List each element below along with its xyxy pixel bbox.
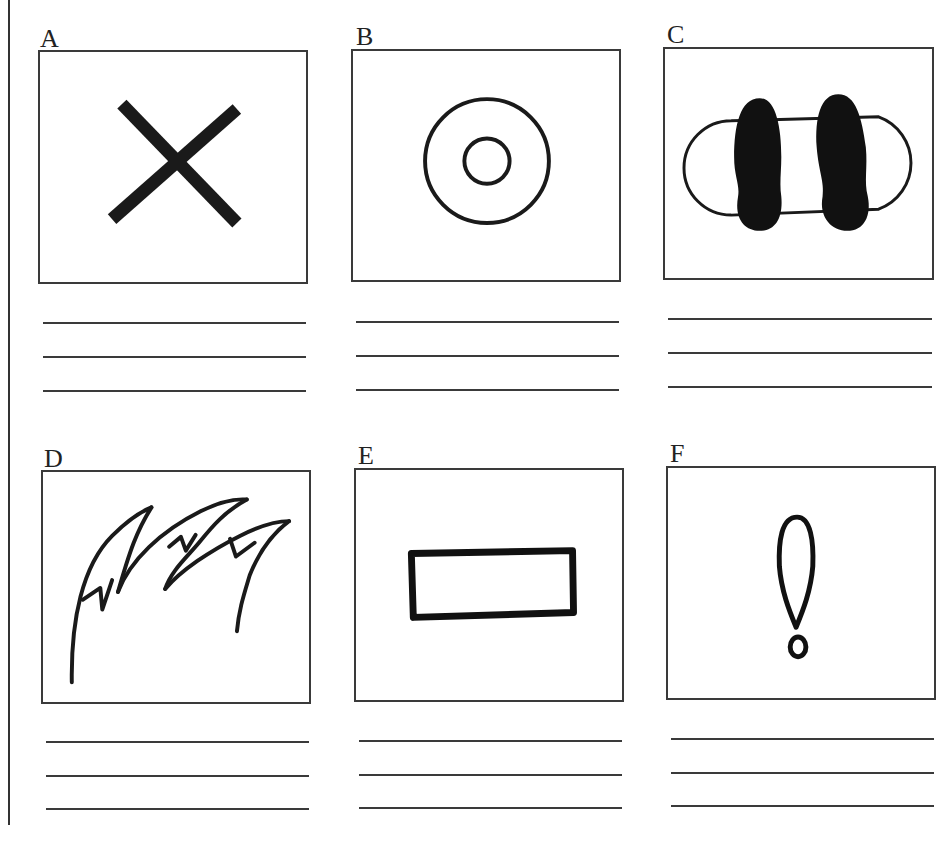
exclamation-mark-icon bbox=[668, 468, 934, 698]
answer-line[interactable] bbox=[668, 386, 932, 388]
flames-grass-icon bbox=[43, 472, 309, 702]
answer-line[interactable] bbox=[359, 807, 622, 809]
answer-line[interactable] bbox=[43, 322, 306, 324]
concentric-circles-icon bbox=[353, 51, 619, 280]
answer-line[interactable] bbox=[668, 318, 932, 320]
answer-line[interactable] bbox=[46, 808, 309, 810]
answer-line[interactable] bbox=[668, 352, 932, 354]
answer-line[interactable] bbox=[671, 805, 934, 807]
answer-line[interactable] bbox=[43, 356, 306, 358]
left-margin-rule bbox=[8, 0, 10, 825]
answer-line[interactable] bbox=[359, 740, 622, 742]
answer-line[interactable] bbox=[359, 774, 622, 776]
sign-frame bbox=[38, 50, 308, 284]
answer-line[interactable] bbox=[356, 389, 619, 391]
sign-frame bbox=[351, 49, 621, 282]
panel-label: E bbox=[358, 443, 374, 469]
answer-line[interactable] bbox=[46, 775, 309, 777]
panel-label: A bbox=[40, 26, 59, 52]
footprints-on-mat-icon bbox=[665, 49, 932, 278]
x-cross-icon bbox=[40, 52, 306, 282]
answer-line[interactable] bbox=[356, 321, 619, 323]
panel-label: B bbox=[356, 24, 373, 50]
panel-label: C bbox=[667, 22, 684, 48]
sign-frame bbox=[666, 466, 936, 700]
panel-label: D bbox=[44, 446, 63, 472]
panel-label: F bbox=[670, 441, 684, 467]
sign-frame bbox=[41, 470, 311, 704]
answer-line[interactable] bbox=[356, 355, 619, 357]
sign-frame bbox=[663, 47, 934, 280]
sign-frame bbox=[354, 468, 624, 702]
answer-line[interactable] bbox=[43, 390, 306, 392]
answer-line[interactable] bbox=[46, 741, 309, 743]
rectangle-outline-icon bbox=[356, 470, 622, 700]
answer-line[interactable] bbox=[671, 738, 934, 740]
answer-line[interactable] bbox=[671, 772, 934, 774]
